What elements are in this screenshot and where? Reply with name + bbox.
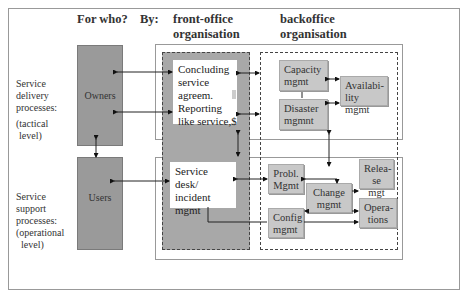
connector-arrows — [0, 0, 467, 301]
